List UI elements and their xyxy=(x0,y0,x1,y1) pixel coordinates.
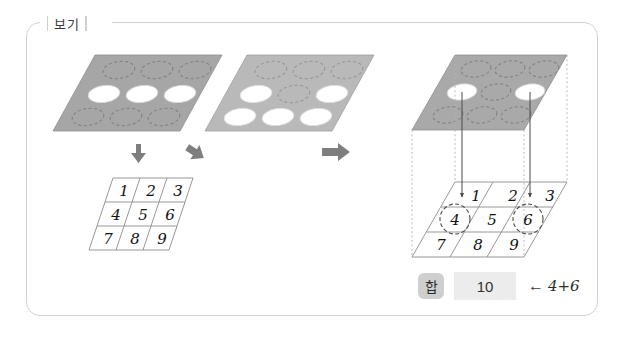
cell-value: 2 xyxy=(145,182,156,200)
sum-value-text: 10 xyxy=(477,278,494,295)
cell-value: 1 xyxy=(471,187,481,205)
cell-value: 9 xyxy=(509,236,519,254)
sum-annotation: ← 4+6 xyxy=(528,277,580,295)
sum-label-chip: 합 xyxy=(418,273,444,299)
worksheet-figure: 보기 xyxy=(0,0,625,346)
cell-value: 5 xyxy=(487,211,497,229)
cell-value: 6 xyxy=(523,211,533,229)
cell-value: 4 xyxy=(110,206,121,224)
arrow-down-left-icon xyxy=(184,142,204,162)
cell-value: 4 xyxy=(449,211,460,229)
cell-value: 7 xyxy=(436,236,446,254)
arrow-left-icon: ← xyxy=(528,278,544,294)
cell-value: 1 xyxy=(119,182,129,200)
cell-value: 3 xyxy=(173,182,183,200)
cell-value: 8 xyxy=(473,236,483,254)
number-grid-source-values: 1 2 3 4 5 6 7 8 9 xyxy=(103,182,183,248)
cell-value: 2 xyxy=(507,187,518,205)
cell-value: 7 xyxy=(103,230,113,248)
sum-expression: 4+6 xyxy=(548,277,580,295)
plate-left xyxy=(53,55,222,131)
sum-value-box: 10 xyxy=(454,272,516,300)
arrow-down-icon xyxy=(131,144,146,163)
arrow-right-icon xyxy=(322,143,350,161)
cell-value: 8 xyxy=(130,230,140,248)
cell-value: 6 xyxy=(165,206,175,224)
plate-result-top xyxy=(412,55,567,130)
sum-row: 합 10 ← 4+6 xyxy=(418,272,580,300)
number-grid-result-values: 1 2 3 4 5 6 7 8 9 xyxy=(436,187,555,254)
cell-value: 3 xyxy=(545,187,555,205)
cell-value: 9 xyxy=(157,230,167,248)
plate-right xyxy=(205,55,374,131)
sum-label-text: 합 xyxy=(425,276,438,296)
cell-value: 5 xyxy=(138,206,148,224)
